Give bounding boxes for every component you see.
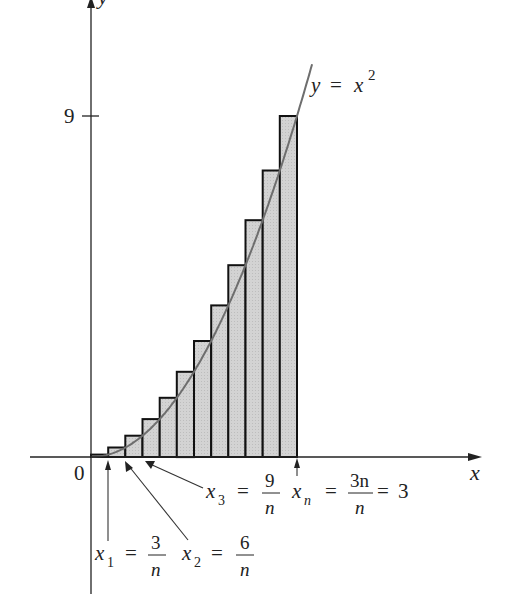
svg-text:3n: 3n [350,470,370,491]
svg-text:n: n [265,497,275,518]
annotation-x1: x 1 = 3 n [94,532,166,580]
svg-text:3: 3 [398,479,409,503]
svg-text:x: x [205,479,216,503]
svg-text:=: = [377,479,389,503]
svg-text:n: n [355,497,365,518]
y-tick-label-9: 9 [64,104,75,128]
arrowhead-icon [294,458,300,468]
svg-text:=: = [211,541,223,565]
svg-text:y: y [309,73,321,97]
origin-label: 0 [74,461,85,485]
svg-text:x: x [291,479,302,503]
riemann-rectangle [211,305,228,457]
riemann-rectangle [246,220,263,457]
svg-text:3: 3 [218,493,225,508]
svg-text:=: = [237,479,249,503]
svg-text:2: 2 [194,555,201,570]
riemann-sum-chart: y x 0 9 y = x 2 x 1 = 3 n x 2 = 6 [0,0,510,594]
riemann-rectangle [228,265,245,457]
riemann-rectangle [143,419,160,457]
annotation-x2: x 2 = 6 n [181,532,254,580]
svg-text:=: = [125,541,137,565]
x-axis-label: x [469,460,480,485]
arrowhead-icon [105,460,111,470]
svg-text:2: 2 [368,67,376,83]
svg-text:n: n [151,559,161,580]
annotation-x3: x 3 = 9 n [205,470,280,518]
y-axis-label: y [96,0,108,9]
svg-text:=: = [325,479,337,503]
riemann-rectangle [160,398,177,457]
svg-text:6: 6 [240,532,250,553]
svg-text:x: x [94,541,105,565]
annotation-xn: x n = 3n n = 3 [291,470,409,518]
svg-text:x: x [181,541,192,565]
riemann-rectangle [280,116,297,457]
y-axis-arrow-icon [87,0,95,8]
curve-label: y = x 2 [309,67,376,97]
svg-text:n: n [240,559,250,580]
svg-text:9: 9 [265,470,275,491]
svg-text:x: x [353,73,364,97]
riemann-rectangles [91,116,297,457]
svg-text:=: = [330,73,342,97]
svg-text:1: 1 [107,555,114,570]
svg-text:3: 3 [151,532,161,553]
svg-text:n: n [304,493,311,508]
